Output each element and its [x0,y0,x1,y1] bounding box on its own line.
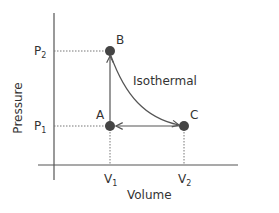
point-a-label: A [96,108,105,122]
p1-tick-label: P1 [34,119,46,135]
point-c [179,121,189,131]
y-axis-title: Pressure [11,82,25,133]
v1-tick-label: V1 [104,172,117,188]
process-b-to-c-isothermal [111,56,179,125]
point-c-label: C [190,108,198,122]
isothermal-label: Isothermal [133,74,197,88]
point-b [105,46,115,56]
point-a [105,121,115,131]
point-b-label: B [116,33,124,47]
pv-diagram: A B C Isothermal P2 P1 V1 V2 Volume Pres… [0,0,279,213]
x-axis-title: Volume [127,188,172,202]
p2-tick-label: P2 [34,44,46,60]
v2-tick-label: V2 [178,172,191,188]
